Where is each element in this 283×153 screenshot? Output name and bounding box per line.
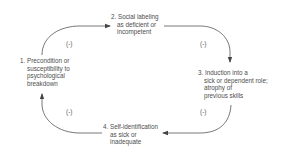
node-4-line: 4. Self-identification [103,123,158,131]
arrow-3-to-4 [163,105,231,133]
node-1-line: 1. Precondition or [20,57,70,65]
node-2-line: incompetent [111,28,159,36]
node-3-line: sick or dependent role; [198,77,268,85]
node-1-line: psychological [20,72,70,80]
node-1-precondition: 1. Precondition or susceptibility to psy… [20,57,70,87]
node-3-induction: 3. Induction into a sick or dependent ro… [198,69,268,99]
edge-label-1-2: (-) [66,40,73,47]
node-1-line: breakdown [20,80,70,88]
edge-label-3-4: (-) [200,108,207,115]
arrow-1-to-2 [42,26,110,55]
edge-label-2-3: (-) [200,40,207,47]
node-2-social-labeling: 2. Social labeling as deficient or incom… [111,13,159,36]
node-4-self-identification: 4. Self-identification as sick or inadeq… [103,123,158,146]
arrow-2-to-3 [164,26,230,62]
node-2-line: as deficient or [111,21,159,29]
node-3-line: previous skills [198,92,268,100]
node-3-line: atrophy of [198,84,268,92]
node-3-line: 3. Induction into a [198,69,268,77]
social-breakdown-cycle-diagram: 1. Precondition or susceptibility to psy… [0,0,283,153]
node-1-line: susceptibility to [20,65,70,73]
node-2-line: 2. Social labeling [111,13,159,21]
edge-label-4-1: (-) [66,108,73,115]
node-4-line: as sick or [103,131,158,139]
node-4-line: inadequate [103,138,158,146]
